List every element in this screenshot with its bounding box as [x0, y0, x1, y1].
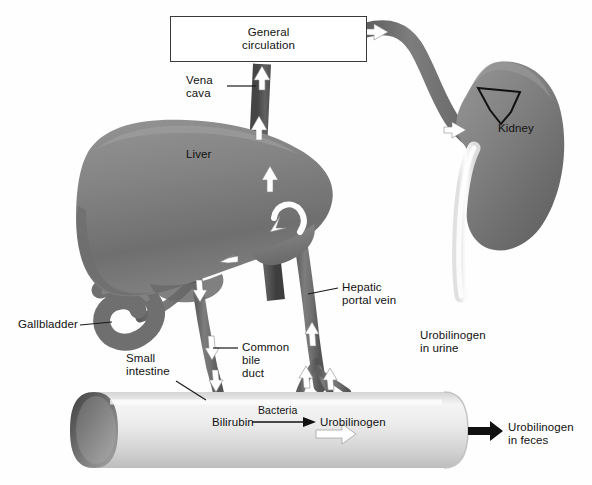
liver-label: Liver [186, 148, 211, 161]
common-bile-duct-label: Common bile duct [242, 341, 304, 380]
urobilinogen-label: Urobilinogen [320, 416, 386, 429]
general-circulation-box: General circulation [170, 16, 367, 62]
kidney-label: Kidney [498, 122, 534, 135]
bacteria-label: Bacteria [258, 404, 297, 417]
vena-cava-label: Vena cava [186, 74, 230, 100]
urobilinogen-in-urine-label: Urobilinogen in urine [420, 329, 504, 355]
urobilinogen-in-feces-label: Urobilinogen in feces [508, 421, 590, 447]
feces-output-arrow [468, 421, 503, 441]
gallbladder-label: Gallbladder [6, 318, 78, 331]
small-intestine-label: Small intestine [126, 352, 184, 378]
hepatic-portal-vein-label: Hepatic portal vein [342, 281, 412, 307]
bilirubin-circulation-diagram: General circulation Vena cava Liver Kidn… [0, 0, 592, 485]
bilirubin-label: Bilirubin [212, 416, 254, 429]
general-circulation-label: General circulation [242, 26, 295, 52]
